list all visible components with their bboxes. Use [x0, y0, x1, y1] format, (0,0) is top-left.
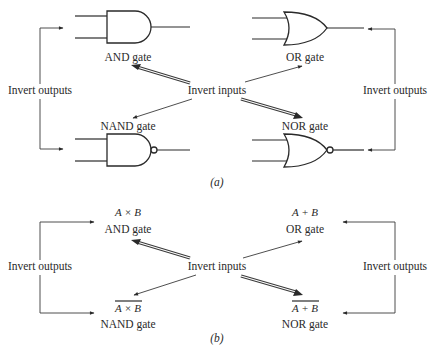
- panel-a-caption: (a): [210, 176, 224, 189]
- invert-outputs-left-bracket-top: [40, 28, 63, 84]
- nand-gate-label-b: NAND gate: [100, 318, 155, 331]
- invert-outputs-right-bracket-bottom-b: [343, 275, 395, 313]
- nand-gate-label: NAND gate: [100, 120, 155, 133]
- nor-gate-label-b: NOR gate: [282, 318, 328, 331]
- nor-gate-label: NOR gate: [282, 120, 328, 133]
- and-expression: A × B: [114, 206, 141, 218]
- double-arrow-to-nor-b-icon: [241, 276, 303, 296]
- panel-a: AND gate OR gate NAND gate NOR gate: [8, 11, 428, 189]
- nand-gate-symbol-icon: [75, 134, 190, 166]
- nor-expression: A + B: [291, 302, 318, 314]
- invert-outputs-left-label-b: Invert outputs: [8, 260, 73, 273]
- nand-expression: A × B: [114, 302, 141, 314]
- and-gate-symbol-icon: [75, 11, 190, 43]
- or-gate-label: OR gate: [286, 51, 324, 64]
- invert-outputs-right-label-b: Invert outputs: [363, 260, 428, 273]
- invert-outputs-left-bracket-bottom-b: [40, 275, 94, 313]
- arrow-to-nand-icon: [133, 99, 192, 118]
- arrow-to-or-icon: [245, 66, 302, 82]
- panel-b-caption: (b): [210, 332, 224, 345]
- invert-outputs-right-label-a: Invert outputs: [363, 84, 428, 97]
- invert-outputs-right-bracket-top: [368, 29, 395, 84]
- arrow-to-or-b-icon: [243, 241, 302, 258]
- logic-gate-duality-diagram: AND gate OR gate NAND gate NOR gate: [0, 0, 434, 347]
- invert-outputs-right-bracket-top-b: [343, 222, 395, 260]
- invert-inputs-label-a: Invert inputs: [188, 84, 247, 97]
- or-gate-symbol-icon: [252, 12, 364, 45]
- invert-outputs-left-bracket-top-b: [40, 222, 94, 260]
- invert-outputs-left-label-a: Invert outputs: [8, 84, 73, 97]
- double-arrow-to-and-icon: [131, 64, 190, 83]
- nor-gate-symbol-icon: [252, 134, 364, 167]
- and-gate-label-b: AND gate: [105, 223, 152, 236]
- and-gate-label: AND gate: [105, 51, 152, 64]
- invert-outputs-right-bracket-bottom: [368, 99, 395, 150]
- invert-inputs-label-b: Invert inputs: [188, 260, 247, 273]
- double-arrow-to-nor-icon: [241, 99, 303, 119]
- arrow-to-nand-b-icon: [134, 275, 196, 295]
- or-gate-label-b: OR gate: [286, 223, 324, 236]
- invert-outputs-left-bracket-bottom: [40, 99, 63, 149]
- or-expression: A + B: [291, 206, 318, 218]
- double-arrow-to-and-b-icon: [131, 239, 190, 258]
- panel-b: A × B AND gate A + B OR gate A × B NAND …: [8, 206, 428, 345]
